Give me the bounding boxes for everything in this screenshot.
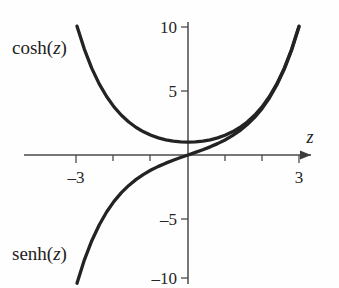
y-tick-label-10: 10: [160, 18, 177, 37]
senh-label-suffix: ): [61, 243, 67, 265]
senh-label-prefix: senh(: [12, 243, 53, 265]
x-tick-label-neg3: –3: [67, 168, 85, 187]
y-tick-label-neg10: –10: [151, 269, 178, 288]
x-axis-name-label: z: [305, 127, 313, 147]
y-tick-label-neg5: –5: [159, 210, 177, 229]
labels-layer: 10 5 –5 –10 –3 3 z cosh(z) senh(z): [0, 0, 339, 288]
y-tick-label-5: 5: [169, 82, 178, 101]
cosh-label-suffix: ): [61, 37, 67, 59]
cosh-curve-label: cosh(z): [12, 37, 67, 59]
cosh-label-prefix: cosh(: [12, 37, 53, 59]
hyperbolic-functions-figure: 10 5 –5 –10 –3 3 z cosh(z) senh(z): [0, 0, 339, 288]
senh-curve-label: senh(z): [12, 243, 67, 265]
x-tick-label-pos3: 3: [295, 168, 304, 187]
